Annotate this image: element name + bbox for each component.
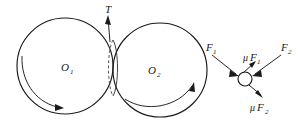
tension-arrowhead	[105, 15, 111, 25]
friction-right-label: F	[256, 101, 264, 113]
force-right-arrowhead	[252, 70, 262, 77]
force-right-label: F	[280, 41, 288, 53]
friction-right-label-subscript: 2	[265, 108, 269, 116]
right-disc-rotation-arc	[125, 86, 192, 107]
right-disc-label: O	[148, 64, 156, 76]
physics-diagram: O 1 O 2 T F 1 F 2 μ F 1 μ F 2	[0, 0, 301, 128]
right-disc-label-subscript: 2	[157, 71, 161, 79]
right-disc-circle	[113, 23, 207, 117]
force-left-arrowhead	[229, 70, 239, 77]
friction-right-mu: μ	[249, 102, 255, 113]
force-left-label: F	[205, 41, 213, 53]
left-disc-rotation-arc	[22, 56, 57, 107]
left-disc-rotation-arrowhead	[55, 104, 64, 111]
friction-left-label-subscript: 1	[257, 58, 261, 66]
force-left-arrow-shaft	[212, 55, 236, 74]
particle-circle	[238, 72, 252, 86]
tension-label: T	[105, 3, 112, 15]
left-disc-label-subscript: 1	[70, 68, 74, 76]
force-left-label-subscript: 1	[213, 48, 217, 56]
friction-left-label: F	[249, 51, 257, 63]
force-right-label-subscript: 2	[288, 48, 292, 56]
friction-left-mu: μ	[242, 52, 248, 63]
right-disc-rotation-arrowhead	[189, 82, 195, 92]
left-disc-label: O	[61, 61, 69, 73]
